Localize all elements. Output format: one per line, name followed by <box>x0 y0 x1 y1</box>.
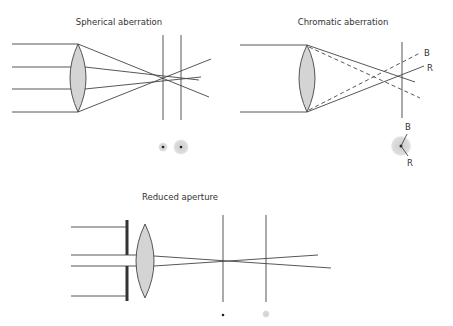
spherical-title: Spherical aberration <box>76 17 162 27</box>
chromatic-aberration-panel: Chromatic aberration B R B R <box>240 17 433 168</box>
spot-label-blue: B <box>405 122 411 132</box>
ray-label-red: R <box>427 63 433 73</box>
chromatic-title: Chromatic aberration <box>298 17 389 27</box>
ray-label-blue: B <box>424 48 430 58</box>
convex-lens <box>70 44 86 112</box>
optics-diagram: Spherical aberration Chromatic aberratio… <box>0 0 453 326</box>
incoming-rays <box>71 227 139 296</box>
spot-diagrams <box>159 140 189 155</box>
reduced-aperture-panel: Reduced aperture <box>71 192 331 318</box>
convex-lens <box>136 224 154 298</box>
spherical-aberration-panel: Spherical aberration <box>12 17 211 155</box>
chromatic-spot <box>391 134 411 156</box>
convex-lens <box>299 45 315 112</box>
spot-diagrams <box>222 311 270 318</box>
reduced-title: Reduced aperture <box>142 192 218 202</box>
blue-rays <box>309 47 420 110</box>
refracted-rays <box>78 44 211 112</box>
incoming-rays <box>12 44 78 112</box>
refracted-rays <box>154 255 331 268</box>
spot-label-red: R <box>407 158 413 168</box>
incoming-rays <box>240 45 307 112</box>
